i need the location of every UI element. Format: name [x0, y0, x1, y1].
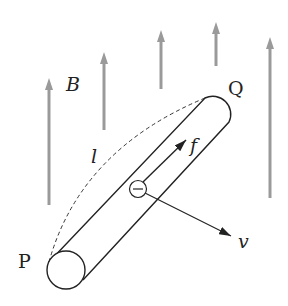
arrowhead-icon [100, 52, 108, 64]
electron [130, 181, 147, 198]
arrowhead-icon [266, 37, 274, 49]
rod-end-p [47, 251, 85, 289]
arrowhead-icon [157, 30, 165, 42]
arrowhead-icon [45, 78, 53, 90]
velocity-arrow [143, 192, 231, 236]
length-label-l: l [91, 145, 97, 167]
end-label-q: Q [228, 77, 244, 99]
arrowhead-icon [212, 22, 220, 34]
rod-in-magnetic-field-diagram: B Q P l f v [0, 0, 288, 306]
end-label-p: P [18, 250, 31, 272]
velocity-label-v: v [238, 230, 249, 252]
field-label-b: B [65, 73, 80, 95]
